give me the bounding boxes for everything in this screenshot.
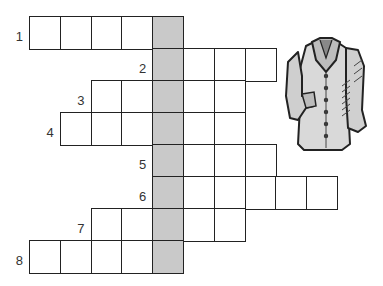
letter-cell[interactable] (214, 112, 246, 146)
letter-cell[interactable] (91, 80, 123, 114)
letter-cell[interactable] (60, 240, 92, 274)
key-cell[interactable] (152, 16, 184, 50)
key-cell[interactable] (152, 112, 184, 146)
letter-cell[interactable] (214, 208, 246, 242)
letter-cell[interactable] (214, 48, 246, 82)
letter-cell[interactable] (214, 144, 246, 178)
letter-cell[interactable] (183, 176, 215, 210)
letter-cell[interactable] (29, 16, 61, 50)
clue-number: 1 (3, 29, 23, 44)
letter-cell[interactable] (183, 144, 215, 178)
letter-cell[interactable] (275, 176, 307, 210)
letter-cell[interactable] (121, 240, 153, 274)
letter-cell[interactable] (245, 144, 277, 178)
key-cell[interactable] (152, 240, 184, 274)
key-cell[interactable] (152, 48, 184, 82)
clue-number: 7 (65, 221, 85, 236)
letter-cell[interactable] (245, 48, 277, 82)
letter-cell[interactable] (183, 208, 215, 242)
key-cell[interactable] (152, 208, 184, 242)
key-cell[interactable] (152, 144, 184, 178)
letter-cell[interactable] (60, 112, 92, 146)
letter-cell[interactable] (214, 176, 246, 210)
letter-cell[interactable] (60, 16, 92, 50)
letter-cell[interactable] (183, 112, 215, 146)
clue-number: 8 (3, 253, 23, 268)
letter-cell[interactable] (91, 16, 123, 50)
clue-number: 3 (65, 93, 85, 108)
letter-cell[interactable] (91, 112, 123, 146)
letter-cell[interactable] (121, 208, 153, 242)
letter-cell[interactable] (91, 240, 123, 274)
letter-cell[interactable] (214, 80, 246, 114)
jacket-icon (284, 36, 368, 154)
clue-number: 6 (126, 189, 146, 204)
clue-number: 5 (126, 157, 146, 172)
key-cell[interactable] (152, 176, 184, 210)
clue-number: 4 (34, 125, 54, 140)
key-cell[interactable] (152, 80, 184, 114)
letter-cell[interactable] (91, 208, 123, 242)
letter-cell[interactable] (121, 80, 153, 114)
letter-cell[interactable] (183, 80, 215, 114)
letter-cell[interactable] (306, 176, 338, 210)
letter-cell[interactable] (121, 16, 153, 50)
clue-number: 2 (126, 61, 146, 76)
letter-cell[interactable] (29, 240, 61, 274)
letter-cell[interactable] (183, 48, 215, 82)
letter-cell[interactable] (245, 176, 277, 210)
letter-cell[interactable] (121, 112, 153, 146)
